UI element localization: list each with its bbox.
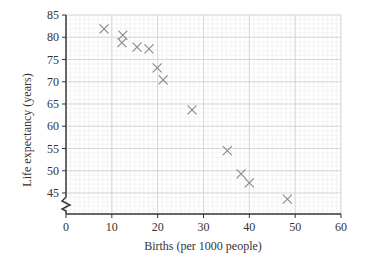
x-tick-label: 0 (63, 220, 69, 234)
y-tick-label: 65 (47, 97, 59, 111)
y-tick-label: 60 (47, 119, 59, 133)
y-axis-label: Life expectancy (years) (20, 73, 34, 186)
x-tick-label: 20 (152, 220, 164, 234)
data-point-marker (117, 38, 126, 47)
y-tick-label: 85 (47, 8, 59, 22)
data-point-marker (144, 44, 153, 53)
axes (62, 15, 341, 218)
data-point-marker (133, 43, 142, 52)
data-point-marker (159, 75, 168, 84)
y-tick-label: 55 (47, 142, 59, 156)
y-tick-label: 45 (47, 186, 59, 200)
x-tick-label: 30 (198, 220, 210, 234)
scatter-chart: 4550556065707580850102030405060 Births (… (0, 0, 365, 269)
data-point-marker (223, 146, 232, 155)
x-tick-label: 50 (289, 220, 301, 234)
x-axis-label: Births (per 1000 people) (144, 239, 262, 253)
y-tick-label: 80 (47, 30, 59, 44)
x-tick-label: 40 (243, 220, 255, 234)
x-tick-label: 60 (335, 220, 347, 234)
x-tick-label: 10 (106, 220, 118, 234)
y-tick-label: 50 (47, 164, 59, 178)
data-point-marker (153, 63, 162, 72)
y-tick-label: 70 (47, 75, 59, 89)
y-tick-label: 75 (47, 53, 59, 67)
